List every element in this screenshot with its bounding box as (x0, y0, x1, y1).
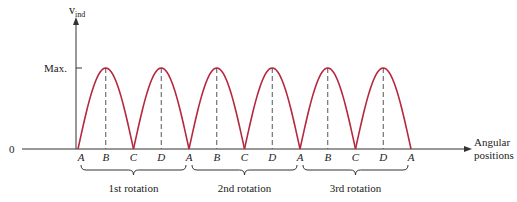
point-label-b: B (102, 151, 109, 163)
angular-point-labels: ABCDABCDABCDA (77, 151, 415, 163)
rotation-label: 1st rotation (109, 182, 159, 194)
peak-dashed-lines (106, 68, 384, 149)
voltage-curve (78, 68, 411, 149)
x-axis-label-line2: positions (474, 149, 514, 161)
max-label: Max. (44, 62, 67, 74)
y-axis-label: vind (69, 3, 85, 19)
rotation-brace (303, 165, 408, 175)
rotation-label: 3rd rotation (330, 182, 382, 194)
x-axis-arrowhead (464, 146, 472, 152)
point-label-d: D (267, 151, 276, 163)
axes (22, 17, 472, 152)
point-label-c: C (352, 151, 360, 163)
rotation-brace (192, 165, 297, 175)
point-label-d: D (378, 151, 387, 163)
point-label-c: C (130, 151, 138, 163)
point-label-a: A (407, 151, 415, 163)
point-label-c: C (241, 151, 249, 163)
rotation-brace (81, 165, 186, 175)
zero-label: 0 (9, 143, 15, 155)
point-label-b: B (213, 151, 220, 163)
point-label-a: A (185, 151, 193, 163)
rotation-labels: 1st rotation2nd rotation3rd rotation (109, 182, 382, 194)
point-label-a: A (296, 151, 304, 163)
point-label-b: B (324, 151, 331, 163)
rectified-voltage-diagram: vind Max. 0 Angular positions ABCDABCDAB… (0, 0, 517, 202)
rotation-braces (81, 165, 408, 175)
point-label-d: D (156, 151, 165, 163)
x-axis-label-line1: Angular (474, 136, 510, 148)
rotation-label: 2nd rotation (218, 182, 272, 194)
point-label-a: A (77, 151, 85, 163)
